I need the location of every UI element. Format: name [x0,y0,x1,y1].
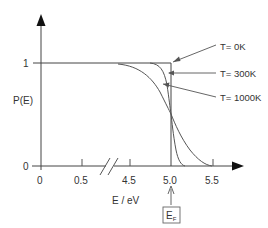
x-tick-0: 0 [37,175,43,186]
y-axis-arrow-icon [37,14,46,26]
curve-t-300k [150,63,185,166]
x-axis-label: E / eV [112,195,140,206]
label-t-300k: T= 300K [220,68,257,79]
label-t-1000k: T= 1000K [220,92,262,103]
x-axis-arrow-icon [232,162,244,171]
curve-t-1000k [118,64,212,166]
x-tick-5-5: 5.5 [205,175,219,186]
x-tick-0-5: 0.5 [74,175,88,186]
label-t-0k: T= 0K [220,41,246,52]
y-tick-0: 0 [23,161,29,172]
y-axis-label: P(E) [13,95,33,106]
x-tick-4-5: 4.5 [122,175,136,186]
x-tick-5-0: 5.0 [163,175,177,186]
fermi-dirac-diagram: 1 0 P(E) 0 0.5 4.5 5.0 5.5 E / eV T= 0K … [0,0,268,228]
y-tick-1: 1 [23,58,29,69]
